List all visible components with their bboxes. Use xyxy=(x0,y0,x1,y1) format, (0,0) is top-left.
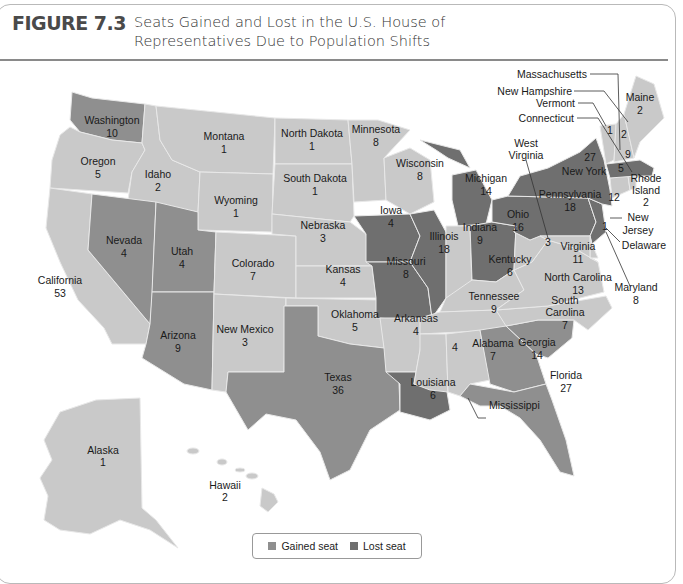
svg-text:Maine: Maine xyxy=(626,91,655,103)
svg-text:8: 8 xyxy=(633,294,639,306)
legend-item-lost: Lost seat xyxy=(350,540,406,552)
svg-text:27: 27 xyxy=(584,151,596,163)
svg-text:27: 27 xyxy=(560,382,572,394)
svg-text:Nebraska: Nebraska xyxy=(301,219,346,231)
svg-text:8: 8 xyxy=(403,268,409,280)
svg-text:Kentucky: Kentucky xyxy=(488,253,532,265)
svg-text:7: 7 xyxy=(250,270,256,282)
svg-text:West: West xyxy=(514,137,538,149)
svg-text:9: 9 xyxy=(477,234,483,246)
svg-text:4: 4 xyxy=(121,247,127,259)
svg-text:9: 9 xyxy=(175,342,181,354)
svg-text:Pennsylvania: Pennsylvania xyxy=(539,188,602,200)
leader-vermont xyxy=(578,103,606,126)
svg-text:1: 1 xyxy=(221,143,227,155)
svg-text:Idaho: Idaho xyxy=(145,168,171,180)
state-arizona xyxy=(142,292,214,390)
svg-text:8: 8 xyxy=(417,170,423,182)
svg-text:Louisiana: Louisiana xyxy=(411,376,456,388)
svg-text:Delaware: Delaware xyxy=(622,239,667,251)
state-alaska xyxy=(40,398,178,548)
svg-text:5: 5 xyxy=(618,162,624,174)
state-hawaii-island3 xyxy=(235,468,245,472)
svg-text:Indiana: Indiana xyxy=(463,221,498,233)
gained-swatch-icon xyxy=(268,542,276,550)
svg-text:14: 14 xyxy=(531,349,543,361)
svg-text:3: 3 xyxy=(320,232,326,244)
svg-text:Vermont: Vermont xyxy=(536,97,575,109)
svg-text:Virginia: Virginia xyxy=(561,240,596,252)
svg-text:14: 14 xyxy=(480,185,492,197)
svg-text:North Carolina: North Carolina xyxy=(544,271,612,283)
svg-text:Massachusetts: Massachusetts xyxy=(517,68,587,80)
svg-text:4: 4 xyxy=(388,217,394,229)
svg-text:5: 5 xyxy=(352,321,358,333)
svg-text:9: 9 xyxy=(625,148,631,160)
svg-text:North Dakota: North Dakota xyxy=(281,127,343,139)
svg-text:Island: Island xyxy=(632,184,660,196)
legend-lost-label: Lost seat xyxy=(363,540,406,552)
map-legend: Gained seat Lost seat xyxy=(252,533,422,559)
svg-text:Oklahoma: Oklahoma xyxy=(331,308,379,320)
svg-text:18: 18 xyxy=(438,243,450,255)
svg-text:Tennessee: Tennessee xyxy=(469,290,520,302)
svg-text:Minnesota: Minnesota xyxy=(352,123,401,135)
label-rhode-island: RhodeIsland2 xyxy=(631,172,662,208)
svg-text:18: 18 xyxy=(564,201,576,213)
legend-item-gained: Gained seat xyxy=(268,540,338,552)
svg-text:New Hampshire: New Hampshire xyxy=(497,85,572,97)
svg-text:4: 4 xyxy=(413,325,419,337)
svg-text:8: 8 xyxy=(373,136,379,148)
svg-text:Iowa: Iowa xyxy=(380,204,402,216)
svg-text:13: 13 xyxy=(572,284,584,296)
svg-text:1: 1 xyxy=(312,185,318,197)
svg-text:Missouri: Missouri xyxy=(386,255,425,267)
svg-text:Alabama: Alabama xyxy=(472,337,514,349)
state-hawaii-island4 xyxy=(246,473,258,479)
svg-text:2: 2 xyxy=(155,181,161,193)
svg-text:7: 7 xyxy=(562,319,568,331)
svg-text:Carolina: Carolina xyxy=(545,306,584,318)
svg-text:1: 1 xyxy=(233,207,239,219)
svg-text:3: 3 xyxy=(545,236,551,248)
legend-gained-label: Gained seat xyxy=(281,540,338,552)
svg-text:Alaska: Alaska xyxy=(87,444,119,456)
svg-text:Florida: Florida xyxy=(550,369,582,381)
svg-text:New York: New York xyxy=(562,165,607,177)
svg-text:Arkansas: Arkansas xyxy=(394,312,438,324)
svg-text:2: 2 xyxy=(222,491,228,503)
svg-text:Washington: Washington xyxy=(84,114,139,126)
svg-text:Rhode: Rhode xyxy=(631,172,662,184)
svg-text:4: 4 xyxy=(179,258,185,270)
label-maryland: Maryland8 xyxy=(614,281,657,306)
label-hawaii: Hawaii2 xyxy=(209,479,241,503)
svg-text:Wyoming: Wyoming xyxy=(214,194,258,206)
state-hawaii-big xyxy=(260,488,278,512)
svg-text:3: 3 xyxy=(242,336,248,348)
svg-text:Michigan: Michigan xyxy=(465,172,507,184)
svg-text:16: 16 xyxy=(512,221,524,233)
svg-text:Arizona: Arizona xyxy=(160,329,196,341)
svg-text:12: 12 xyxy=(608,191,620,203)
svg-text:Hawaii: Hawaii xyxy=(209,479,241,491)
svg-text:10: 10 xyxy=(106,127,118,139)
svg-text:California: California xyxy=(38,274,83,286)
svg-text:5: 5 xyxy=(95,168,101,180)
label-florida: Florida27 xyxy=(550,369,582,394)
svg-text:11: 11 xyxy=(573,253,584,265)
svg-text:1: 1 xyxy=(100,456,106,468)
svg-text:Ohio: Ohio xyxy=(507,208,529,220)
svg-text:4: 4 xyxy=(452,341,458,353)
svg-text:Virginia: Virginia xyxy=(509,149,544,161)
state-hawaii-island2 xyxy=(217,459,227,465)
svg-text:Jersey: Jersey xyxy=(623,224,655,236)
svg-text:2: 2 xyxy=(621,128,627,140)
svg-text:New Mexico: New Mexico xyxy=(216,323,273,335)
leader-delaware xyxy=(606,228,620,242)
svg-text:1: 1 xyxy=(309,140,315,152)
svg-text:2: 2 xyxy=(637,104,643,116)
svg-text:Connecticut: Connecticut xyxy=(519,112,575,124)
svg-text:Mississippi: Mississippi xyxy=(489,399,540,411)
svg-text:36: 36 xyxy=(332,384,344,396)
